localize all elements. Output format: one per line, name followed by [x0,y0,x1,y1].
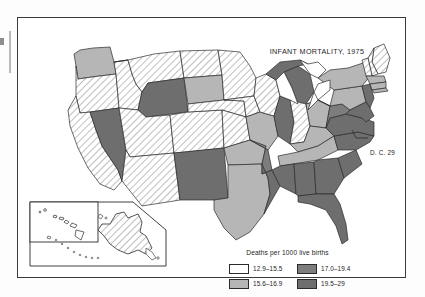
state-new-mexico [174,148,228,200]
legend-row: 15.6–16.9 19.5–29 [229,277,374,290]
legend-item-class-1: 12.9–15.5 [229,264,297,274]
legend-row: 12.9–15.5 17.0–19.4 [229,262,374,275]
figure-container: INFANT MORTALITY, 1975 D. C. 29 Deaths p… [0,0,425,297]
state-north-dakota [180,50,222,78]
legend-item-class-4: 19.5–29 [297,279,365,289]
legend-swatch-medium-gray [297,264,317,274]
legend-item-class-2: 15.6–16.9 [229,279,297,289]
inset-box [30,202,166,266]
state-colorado [170,110,224,153]
scan-artifact [0,38,4,45]
map-frame: INFANT MORTALITY, 1975 D. C. 29 Deaths p… [17,17,406,278]
legend-swatch-hatched [229,264,249,274]
state-minnesota [218,50,256,100]
state-washington [74,47,116,79]
legend: 12.9–15.5 17.0–19.4 15.6–16.9 19.5–29 [229,262,374,292]
legend-title: Deaths per 1000 live births [220,249,355,256]
state-south-dakota [184,75,224,104]
state-arizona [122,150,180,206]
us-choropleth-map [18,18,407,279]
legend-label-class-1: 12.9–15.5 [253,265,282,272]
scan-artifact-line [9,31,11,73]
state-florida [298,194,348,244]
legend-swatch-dark-gray [297,279,317,289]
legend-item-class-3: 17.0–19.4 [297,264,365,274]
legend-swatch-light-gray [229,279,249,289]
map-title: INFANT MORTALITY, 1975 [261,47,373,56]
state-alabama [294,162,316,196]
legend-label-class-2: 15.6–16.9 [253,280,282,287]
dc-annotation: D. C. 29 [370,149,395,156]
legend-label-class-4: 19.5–29 [321,280,345,287]
legend-label-class-3: 17.0–19.4 [321,265,350,272]
